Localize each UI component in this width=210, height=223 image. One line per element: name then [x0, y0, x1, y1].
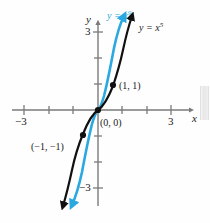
x-tick-label-neg3: −3 — [15, 116, 27, 127]
function-graph-figure: y x −3 3 3 −3 (1, 1) (0, 0) (−1, −1) y =… — [0, 0, 210, 223]
plot-canvas — [0, 0, 210, 223]
curve-label-x5-base: y = x — [139, 22, 160, 33]
point-dot-1-1 — [110, 82, 116, 88]
curve-label-x5-exponent: 5 — [160, 21, 164, 29]
y-tick-label-neg3: −3 — [79, 182, 91, 193]
curve-label-x5: y = x5 — [139, 22, 163, 33]
y-axis-label: y — [86, 14, 91, 25]
curve-label-x9-exponent: 9 — [128, 9, 132, 17]
x-tick-label-3: 3 — [168, 116, 174, 127]
y-tick-label-3: 3 — [85, 26, 91, 37]
curve-label-x9-base: y = x — [107, 10, 128, 21]
point-label-0-0: (0, 0) — [100, 118, 122, 128]
point-dot-neg1-neg1 — [80, 132, 86, 138]
point-label-1-1: (1, 1) — [119, 81, 141, 91]
point-label-neg1-neg1: (−1, −1) — [31, 142, 64, 152]
curve-label-x9: y = x9 — [107, 10, 131, 21]
point-dot-0-0 — [95, 107, 101, 113]
page-edge-artifact — [200, 86, 209, 120]
x-axis-label: x — [192, 113, 197, 124]
